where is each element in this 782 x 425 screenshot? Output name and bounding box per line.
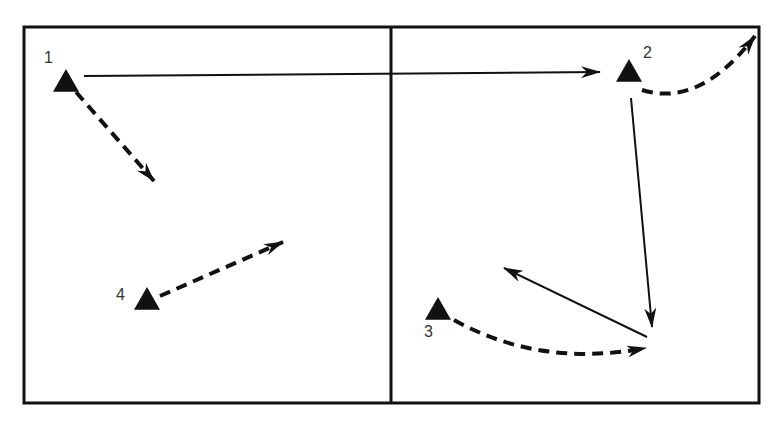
- run-arrow-run-2: [642, 36, 755, 94]
- player-label-2: 2: [643, 45, 652, 61]
- pass-arrow-pass-2-down: [631, 98, 652, 327]
- player-label-4: 4: [116, 287, 125, 303]
- player-triangle-icon-4: [134, 287, 160, 310]
- player-triangle-icon-1: [53, 69, 79, 92]
- player-triangle-icon-3: [425, 297, 451, 320]
- pass-arrow-pass-1-to-2: [84, 72, 600, 76]
- players: [53, 59, 642, 320]
- play-diagram: [0, 0, 782, 425]
- run-arrow-run-3: [454, 320, 646, 354]
- movement-paths: [76, 36, 755, 354]
- run-arrow-run-4: [160, 242, 283, 296]
- court: [24, 27, 759, 403]
- player-label-3: 3: [424, 324, 433, 340]
- player-label-1: 1: [44, 50, 53, 66]
- player-triangle-icon-2: [616, 59, 642, 82]
- run-arrow-run-1: [76, 92, 154, 181]
- pass-arrow-pass-back: [504, 268, 647, 337]
